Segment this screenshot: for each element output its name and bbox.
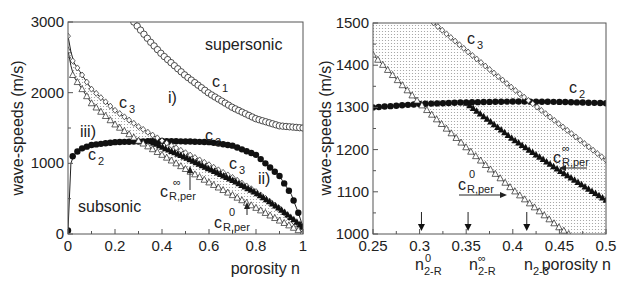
svg-text:n: n: [524, 256, 533, 273]
right-plot-area: [370, 20, 610, 237]
svg-text:∞: ∞: [478, 252, 486, 264]
svg-text:R,per: R,per: [169, 190, 196, 202]
right-y-axis-label: wave-speeds (m/s): [317, 60, 334, 196]
right-chart: 0.250.30.350.40.450.51000110012001300140…: [317, 14, 616, 277]
left-y-axis-label: wave-speeds (m/s): [9, 60, 26, 196]
y-tick-label: 1500: [336, 14, 369, 31]
dotted-band: [373, 23, 606, 234]
down-arrow-icon: [465, 224, 472, 231]
region-i-label: i): [168, 89, 177, 106]
x-tick-label: 0.35: [452, 237, 481, 254]
y-tick-label: 1200: [336, 141, 369, 158]
svg-text:c: c: [458, 176, 466, 193]
svg-text:0: 0: [469, 168, 475, 180]
x-tick-label: 0.5: [596, 237, 617, 254]
cR-per-zero-label: c 0 R,per: [214, 202, 250, 233]
y-tick-label: 1000: [31, 154, 64, 171]
y-tick-label: 1000: [336, 225, 369, 242]
svg-text:c: c: [119, 94, 127, 111]
x-tick-label: 0.4: [152, 237, 173, 254]
svg-text:c: c: [553, 149, 561, 166]
c3-upper-label: c 3: [119, 94, 135, 115]
down-arrow-icon: [523, 224, 530, 231]
svg-text:c: c: [214, 214, 222, 231]
svg-text:∞: ∞: [562, 142, 570, 154]
y-tick-label: 3000: [31, 13, 64, 30]
svg-text:c: c: [229, 155, 237, 172]
svg-text:c: c: [205, 127, 213, 144]
svg-text:c: c: [88, 146, 96, 163]
svg-text:n: n: [469, 256, 478, 273]
c2-lower-label: c 2: [88, 146, 104, 167]
svg-text:2: 2: [98, 155, 104, 167]
svg-text:2: 2: [579, 88, 585, 100]
svg-text:∞: ∞: [173, 176, 181, 188]
x-tick-label: 0.6: [199, 237, 220, 254]
svg-text:3: 3: [239, 164, 245, 176]
y-tick-label: 1300: [336, 98, 369, 115]
n2R-inf-label: n ∞ 2-R: [469, 252, 496, 277]
x-tick-label: 1: [299, 237, 307, 254]
y-tick-label: 2000: [31, 84, 64, 101]
c1-label: c 1: [212, 73, 228, 94]
svg-text:1: 1: [222, 82, 228, 94]
svg-text:c: c: [160, 183, 168, 200]
svg-text:2-R: 2-R: [478, 265, 496, 277]
x-tick-label: 0: [64, 237, 72, 254]
subsonic-label: subsonic: [78, 198, 141, 215]
x-tick-label: 0.45: [545, 237, 574, 254]
left-x-axis-label: porosity n: [231, 260, 300, 277]
x-tick-label: 0.8: [246, 237, 267, 254]
right-c2-label: c 2: [569, 79, 585, 100]
right-c3-label: c 3: [467, 30, 483, 51]
n-markers: [418, 212, 530, 231]
x-tick-label: 0.4: [502, 237, 523, 254]
x-tick-label: 0.2: [105, 237, 126, 254]
y-tick-label: 1400: [336, 56, 369, 73]
y-tick-label: 0: [56, 225, 64, 242]
svg-text:c: c: [212, 73, 220, 90]
svg-text:3: 3: [477, 39, 483, 51]
svg-text:0: 0: [229, 206, 235, 218]
svg-text:2: 2: [215, 136, 221, 148]
y-tick-label: 1100: [337, 183, 369, 200]
c3-lower-label: c 3: [229, 155, 245, 176]
svg-text:R,per: R,per: [562, 156, 589, 168]
svg-text:c: c: [467, 30, 475, 47]
svg-text:n: n: [415, 256, 424, 273]
svg-text:c: c: [569, 79, 577, 96]
svg-text:2-3: 2-3: [533, 265, 549, 277]
right-x-axis-label: porosity n: [542, 256, 611, 273]
supersonic-label: supersonic: [205, 36, 282, 53]
svg-text:0: 0: [425, 252, 431, 264]
region-iii-label: iii): [80, 123, 96, 140]
svg-text:R,per: R,per: [467, 183, 494, 195]
cR-per-inf-label: c ∞ R,per: [160, 166, 196, 202]
n2R-zero-label: n 0 2-R: [415, 252, 442, 277]
left-chart: 00.20.40.60.810100020003000 wave-speeds …: [9, 13, 307, 277]
svg-text:3: 3: [129, 103, 135, 115]
down-arrow-icon: [418, 224, 425, 231]
figure: 00.20.40.60.810100020003000 wave-speeds …: [0, 0, 631, 286]
svg-text:R,per: R,per: [223, 221, 250, 233]
svg-text:2-R: 2-R: [424, 265, 442, 277]
region-ii-label: ii): [258, 170, 270, 187]
